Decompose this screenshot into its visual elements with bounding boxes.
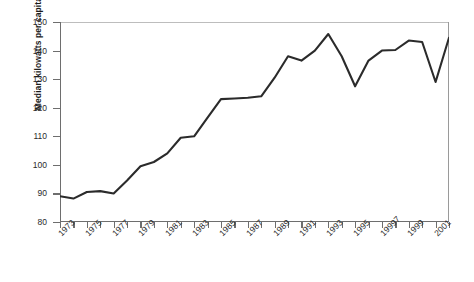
- y-axis-tick-label: 120: [25, 103, 47, 113]
- y-axis-tick-label: 100: [25, 160, 47, 170]
- y-axis-tick-mark: [53, 51, 60, 52]
- y-axis-tick-label: 80: [25, 217, 47, 227]
- y-axis-tick-mark: [53, 79, 60, 80]
- y-axis-tick-mark: [53, 22, 60, 23]
- y-axis-tick-label: 90: [25, 188, 47, 198]
- y-axis-tick-label: 110: [25, 131, 47, 141]
- y-axis-tick-label: 140: [25, 46, 47, 56]
- y-axis-tick-mark: [53, 222, 60, 223]
- y-axis-tick-mark: [53, 165, 60, 166]
- y-axis-tick-label: 130: [25, 74, 47, 84]
- y-axis-tick-label-group: 8090100110120130140150: [22, 0, 47, 282]
- data-series-svg: [60, 22, 449, 222]
- chart-container: Median kilowatts per capita in Africa 80…: [0, 0, 474, 282]
- y-axis-tick-mark: [53, 193, 60, 194]
- y-axis-tick-label: 150: [25, 17, 47, 27]
- y-axis-tick-mark: [53, 108, 60, 109]
- line-series-path: [60, 34, 449, 199]
- y-axis-tick-mark: [53, 136, 60, 137]
